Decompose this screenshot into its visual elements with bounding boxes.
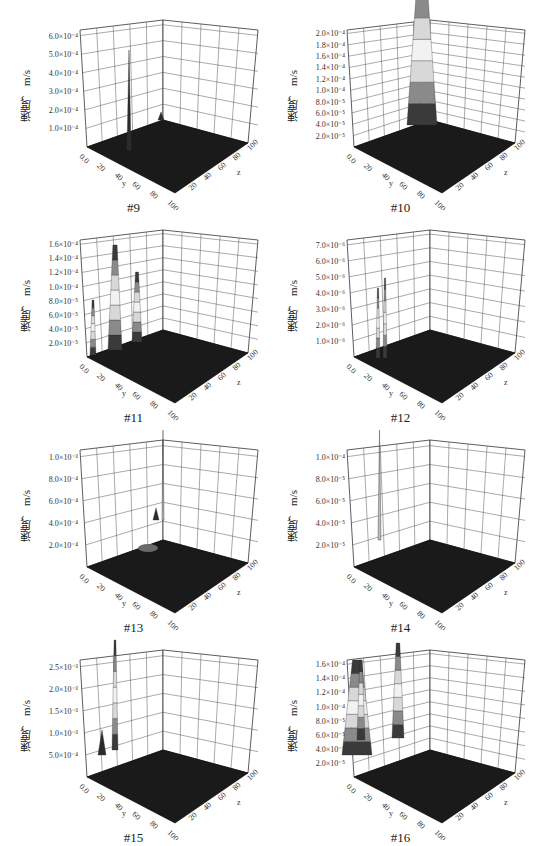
- value-tick-label: 1.4×10⁻⁴: [49, 254, 79, 263]
- value-tick-label: 3.0×10⁻⁴: [49, 87, 79, 96]
- surface-plot: 1.6×10⁻⁴1.4×10⁻⁴1.2×10⁻⁴1.0×10⁻⁴8.0×10⁻⁵…: [0, 210, 267, 420]
- y-axis-tick-label: 20: [95, 581, 107, 593]
- value-tick-label: 1.2×10⁻⁴: [316, 75, 346, 84]
- chart-panel-9: 6.0×10⁻⁴5.0×10⁻⁴4.0×10⁻⁴3.0×10⁻⁴2.0×10⁻⁴…: [0, 0, 267, 210]
- value-tick-label: 6.0×10⁻⁵: [316, 731, 346, 740]
- value-axis-label: 速度， m/s: [285, 700, 301, 752]
- value-axis-label: 速度， m/s: [18, 70, 34, 122]
- value-axis-label: 速度， m/s: [285, 70, 301, 122]
- surface-plot: 7.0×10⁻⁶6.0×10⁻⁶5.0×10⁻⁶4.0×10⁻⁶3.0×10⁻⁶…: [267, 210, 534, 420]
- y-axis-tick-label: 60: [397, 600, 409, 612]
- y-axis-tick-label: 20: [95, 161, 107, 173]
- value-tick-label: 5.0×10⁻⁴: [49, 50, 79, 59]
- value-tick-label: 2.0×10⁻⁴: [49, 541, 79, 550]
- value-tick-label: 4.0×10⁻⁵: [49, 325, 79, 334]
- value-tick-label: 1.6×10⁻⁴: [49, 240, 79, 249]
- value-tick-label: 4.0×10⁻⁵: [316, 745, 346, 754]
- y-axis-label: y: [122, 809, 126, 818]
- value-tick-label: 6.0×10⁻⁵: [316, 109, 346, 118]
- y-axis-label: y: [389, 389, 393, 398]
- value-tick-label: 7.0×10⁻⁶: [316, 241, 346, 250]
- value-axis-label: 速度， m/s: [285, 280, 301, 332]
- value-tick-label: 1.2×10⁻⁴: [316, 688, 346, 697]
- value-tick-label: 4.0×10⁻⁵: [316, 120, 346, 129]
- y-axis-tick-label: 20: [362, 161, 374, 173]
- value-tick-label: 8.0×10⁻⁵: [316, 717, 346, 726]
- value-tick-label: 1.5×10⁻³: [49, 707, 79, 716]
- surface-plot: 2.5×10⁻³2.0×10⁻³1.5×10⁻³1.0×10⁻³5.0×10⁻⁴…: [0, 630, 267, 840]
- value-tick-label: 5.0×10⁻⁴: [49, 751, 79, 760]
- value-tick-label: 1.2×10⁻⁴: [49, 268, 79, 277]
- value-tick-label: 4.0×10⁻⁴: [49, 519, 79, 528]
- y-axis-tick-label: 0.0: [345, 782, 358, 795]
- surface-plot: 6.0×10⁻⁴5.0×10⁻⁴4.0×10⁻⁴3.0×10⁻⁴2.0×10⁻⁴…: [0, 0, 267, 210]
- value-tick-label: 2.0×10⁻⁶: [316, 321, 346, 330]
- value-axis-label: 速度， m/s: [18, 280, 34, 332]
- value-tick-label: 2.0×10⁻³: [49, 685, 79, 694]
- z-axis-label: z: [237, 168, 241, 177]
- value-tick-label: 6.0×10⁻⁶: [316, 257, 346, 266]
- y-axis-tick-label: 20: [95, 371, 107, 383]
- value-tick-label: 6.0×10⁻⁴: [49, 497, 79, 506]
- value-tick-label: 1.6×10⁻⁴: [316, 52, 346, 61]
- y-axis-tick-label: 20: [95, 791, 107, 803]
- value-axis-label: 速度， m/s: [18, 490, 34, 542]
- value-tick-label: 5.0×10⁻⁶: [316, 273, 346, 282]
- value-tick-label: 2.0×10⁻⁵: [316, 541, 346, 550]
- value-tick-label: 2.0×10⁻⁵: [316, 759, 346, 768]
- value-tick-label: 2.0×10⁻⁴: [316, 29, 346, 38]
- y-axis-label: y: [389, 599, 393, 608]
- y-axis-label: y: [389, 809, 393, 818]
- y-axis-tick-label: 60: [130, 180, 142, 192]
- chart-panel-13: 1.0×10⁻³8.0×10⁻⁴6.0×10⁻⁴4.0×10⁻⁴2.0×10⁻⁴…: [0, 420, 267, 630]
- y-axis-tick-label: 0.0: [78, 152, 91, 165]
- chart-panel-12: 7.0×10⁻⁶6.0×10⁻⁶5.0×10⁻⁶4.0×10⁻⁶3.0×10⁻⁶…: [267, 210, 534, 420]
- y-axis-tick-label: 60: [397, 390, 409, 402]
- chart-panel-14: 1.0×10⁻⁴8.0×10⁻⁵6.0×10⁻⁵4.0×10⁻⁵2.0×10⁻⁵…: [267, 420, 534, 630]
- y-axis-tick-label: 20: [362, 581, 374, 593]
- value-tick-label: 6.0×10⁻⁵: [49, 311, 79, 320]
- y-axis-tick-label: 20: [362, 791, 374, 803]
- y-axis-tick-label: 0.0: [345, 362, 358, 375]
- value-tick-label: 1.4×10⁻⁴: [316, 63, 346, 72]
- y-axis-label: y: [389, 179, 393, 188]
- y-axis-tick-label: 60: [397, 810, 409, 822]
- value-tick-label: 2.0×10⁻⁴: [49, 106, 79, 115]
- value-tick-label: 1.0×10⁻³: [49, 453, 79, 462]
- value-tick-label: 1.6×10⁻⁴: [316, 660, 346, 669]
- surface-plot: 1.0×10⁻³8.0×10⁻⁴6.0×10⁻⁴4.0×10⁻⁴2.0×10⁻⁴…: [0, 420, 267, 630]
- value-tick-label: 8.0×10⁻⁵: [49, 297, 79, 306]
- value-tick-label: 1.4×10⁻⁴: [316, 674, 346, 683]
- z-axis-label: z: [237, 798, 241, 807]
- y-axis-tick-label: 20: [362, 371, 374, 383]
- value-axis-label: 速度， m/s: [18, 700, 34, 752]
- value-tick-label: 4.0×10⁻⁵: [316, 519, 346, 528]
- surface-plot: 2.0×10⁻⁴1.8×10⁻⁴1.6×10⁻⁴1.4×10⁻⁴1.2×10⁻⁴…: [267, 0, 534, 210]
- value-tick-label: 2.5×10⁻³: [49, 663, 79, 672]
- panel-caption: #15: [0, 830, 267, 846]
- value-tick-label: 1.8×10⁻⁴: [316, 41, 346, 50]
- value-tick-label: 4.0×10⁻⁶: [316, 289, 346, 298]
- y-axis-tick-label: 0.0: [345, 572, 358, 585]
- value-tick-label: 2.0×10⁻⁵: [316, 132, 346, 141]
- value-tick-label: 6.0×10⁻⁴: [49, 32, 79, 41]
- z-axis-label: z: [504, 588, 508, 597]
- value-tick-label: 1.0×10⁻³: [49, 729, 79, 738]
- chart-panel-11: 1.6×10⁻⁴1.4×10⁻⁴1.2×10⁻⁴1.0×10⁻⁴8.0×10⁻⁵…: [0, 210, 267, 420]
- chart-panel-10: 2.0×10⁻⁴1.8×10⁻⁴1.6×10⁻⁴1.4×10⁻⁴1.2×10⁻⁴…: [267, 0, 534, 210]
- value-tick-label: 3.0×10⁻⁶: [316, 305, 346, 314]
- z-axis-label: z: [504, 798, 508, 807]
- y-axis-tick-label: 60: [130, 810, 142, 822]
- y-axis-tick-label: 0.0: [78, 362, 91, 375]
- chart-panel-15: 2.5×10⁻³2.0×10⁻³1.5×10⁻³1.0×10⁻³5.0×10⁻⁴…: [0, 630, 267, 840]
- value-tick-label: 2.0×10⁻⁵: [49, 339, 79, 348]
- value-tick-label: 1.0×10⁻⁴: [316, 703, 346, 712]
- surface-plot: 1.0×10⁻⁴8.0×10⁻⁵6.0×10⁻⁵4.0×10⁻⁵2.0×10⁻⁵…: [267, 420, 534, 630]
- value-tick-label: 8.0×10⁻⁵: [316, 475, 346, 484]
- value-tick-label: 6.0×10⁻⁵: [316, 497, 346, 506]
- value-tick-label: 8.0×10⁻⁵: [316, 98, 346, 107]
- y-axis-tick-label: 0.0: [345, 152, 358, 165]
- value-tick-label: 1.0×10⁻⁴: [49, 283, 79, 292]
- panel-caption: #16: [267, 830, 534, 846]
- value-tick-label: 1.0×10⁻⁶: [316, 337, 346, 346]
